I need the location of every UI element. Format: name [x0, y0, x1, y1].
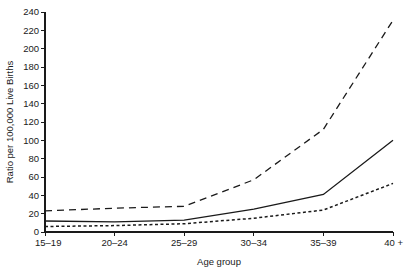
- y-tick-label: 120: [23, 116, 39, 127]
- y-tick-label: 60: [28, 171, 39, 182]
- y-tick-label: 200: [23, 43, 39, 54]
- x-tick-label: 40 +: [384, 237, 403, 248]
- series-middle-solid-series: [45, 140, 393, 222]
- chart-container: 020406080100120140160180200220240 15–192…: [0, 0, 411, 272]
- y-tick-label: 40: [28, 190, 39, 201]
- y-tick-label: 20: [28, 208, 39, 219]
- x-tick-label: 25–29: [171, 237, 197, 248]
- y-tick-label: 0: [34, 226, 39, 237]
- y-tick-label: 240: [23, 6, 39, 17]
- x-axis-title: Age group: [197, 256, 241, 267]
- y-tick-label: 140: [23, 98, 39, 109]
- x-tick-label: 15–19: [35, 237, 61, 248]
- y-axis: 020406080100120140160180200220240: [23, 6, 45, 237]
- y-tick-label: 80: [28, 153, 39, 164]
- series-lines: [45, 20, 393, 226]
- y-tick-label: 220: [23, 25, 39, 36]
- x-tick-label: 35–39: [310, 237, 336, 248]
- x-tick-label: 30–34: [241, 237, 267, 248]
- y-tick-label: 160: [23, 80, 39, 91]
- line-chart: 020406080100120140160180200220240 15–192…: [0, 0, 411, 272]
- y-axis-title: Ratio per 100,000 Live Births: [4, 60, 15, 183]
- x-axis: 15–1920–2425–2930–3435–3940 +: [35, 232, 403, 248]
- x-tick-label: 20–24: [101, 237, 127, 248]
- y-tick-label: 180: [23, 61, 39, 72]
- series-upper-dashed-series: [45, 20, 393, 211]
- series-lower-dotted-series: [45, 183, 393, 226]
- y-tick-label: 100: [23, 135, 39, 146]
